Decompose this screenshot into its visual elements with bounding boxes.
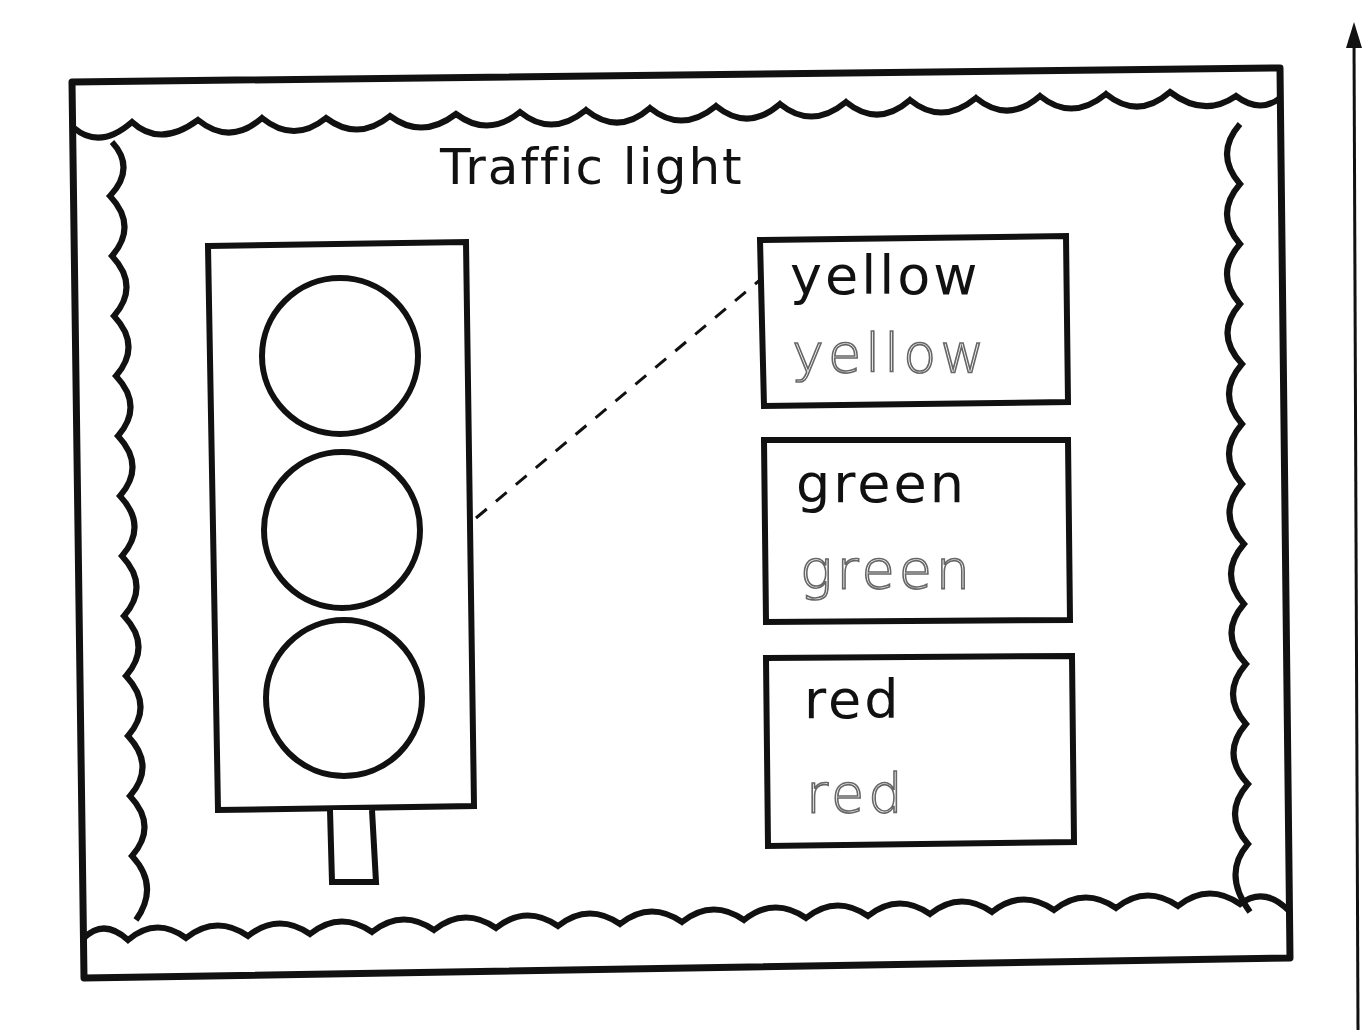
light-top: [262, 278, 418, 434]
light-bottom: [266, 620, 422, 776]
card-red-word: red: [804, 668, 902, 731]
traffic-light-pole: [330, 810, 376, 882]
light-middle: [264, 452, 420, 608]
up-arrow-icon: [1346, 22, 1362, 1030]
scallop-top-border: [74, 92, 1280, 138]
card-green-word: green: [796, 452, 967, 515]
scallop-bottom-border: [84, 893, 1288, 940]
card-yellow-word: yellow: [790, 244, 980, 307]
traffic-light: [208, 242, 474, 882]
card-red-trace: red: [806, 762, 907, 825]
card-yellow-trace: yellow: [792, 322, 988, 385]
scallop-right-border: [1227, 124, 1250, 912]
dashed-connector-line: [476, 280, 760, 518]
scallop-left-border: [110, 142, 147, 920]
card-green-trace: green: [800, 538, 974, 601]
worksheet-title: Traffic light: [440, 138, 744, 196]
